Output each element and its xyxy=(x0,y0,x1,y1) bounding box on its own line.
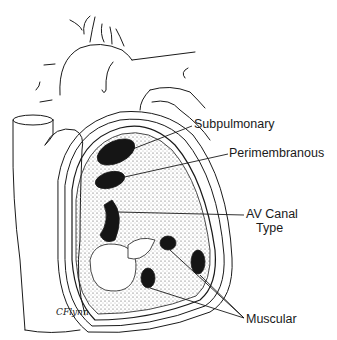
muscular-defect-2 xyxy=(191,250,205,274)
muscular-defect-3 xyxy=(141,268,155,288)
label-subpulmonary: Subpulmonary xyxy=(194,118,275,131)
label-av-canal-type: Type xyxy=(256,222,283,235)
artist-signature: CFlynn xyxy=(56,307,89,317)
label-muscular: Muscular xyxy=(246,313,297,326)
label-perimembranous: Perimembranous xyxy=(229,147,324,160)
label-av-canal: AV Canal xyxy=(246,208,298,221)
heart-diagram: Subpulmonary Perimembranous AV Canal Typ… xyxy=(0,0,337,340)
ventricle-cavity xyxy=(76,133,210,314)
muscular-defect-1 xyxy=(160,236,176,250)
heart-illustration xyxy=(0,0,337,340)
